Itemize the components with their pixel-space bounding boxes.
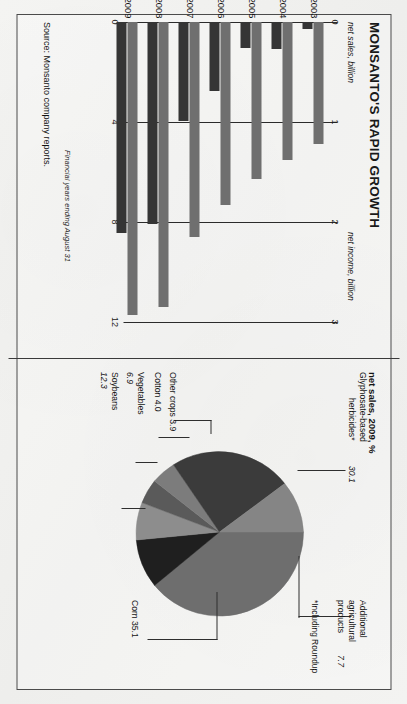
pie-value-glyphosate: 30.1 [346,466,357,483]
bar-income-2006 [209,22,219,91]
leader-line-glyphosate [297,470,345,471]
right-tick-3: 3 [329,319,339,324]
source-note: Source: Monsanto company reports. [41,22,51,167]
infographic-rotated-container: MONSANTO'S RAPID GROWTH net sales, billi… [0,0,407,704]
bar-sales-2006 [220,22,230,205]
footnote: *Including Roundup [309,600,319,673]
right-tick-0: 0 [329,19,339,24]
pie-label-corn: Corn 35.1 [129,600,140,638]
pie-value-soybeans: 12.3 [98,372,109,389]
pie-label-additional-line3: products [335,600,346,633]
bar-sales-2007 [189,22,199,237]
leader-line-vegetables [135,462,157,463]
bar-income-2009 [116,22,126,233]
pie-label-vegetables: Vegetables [135,372,146,415]
bar-chart: 0 4 8 12 0 1 2 3 [87,22,339,352]
year-label-2007: 2007 [184,0,194,18]
leader-line-additional-h [298,556,299,618]
leader-line-corn-h [216,592,217,640]
pie-label-other-crops: Other crops 3.9 [167,372,178,431]
pie-label-additional-line1: Additional [357,600,368,638]
pie-label-glyphosate-line2: herbicides* [346,398,357,441]
bar-sales-2009 [127,22,137,315]
gridline-12 [123,322,337,323]
pie-label-cotton: Cotton 4.0 [152,372,163,412]
right-tick-2: 2 [329,219,339,224]
pie-chart [131,444,307,620]
leader-line-other-crops [173,420,211,421]
bar-sales-2004 [282,22,292,160]
pie-label-soybeans: Soybeans [109,372,120,410]
bar-sales-2008 [158,22,168,307]
year-label-2009: 2009 [122,0,132,18]
page-title: MONSANTO'S RAPID GROWTH [366,22,381,228]
right-axis-label: net income, billion [345,232,355,301]
left-axis-label: net sales, billion [345,22,355,83]
bar-income-2003 [302,22,312,29]
leader-line-corn-v [147,639,217,640]
panel-divider [8,358,399,359]
bar-income-2005 [240,22,250,48]
year-label-2004: 2004 [277,0,287,18]
year-label-2005: 2005 [246,0,256,18]
pie-label-additional-line2: agricultural [346,600,357,642]
pie-value-vegetables: 6.9 [124,372,135,384]
year-label-2003: 2003 [308,0,318,18]
bar-income-2007 [178,22,188,121]
bar-income-2008 [147,22,157,224]
bar-income-2004 [271,22,281,49]
left-tick-12: 12 [109,317,119,327]
year-label-2008: 2008 [153,0,163,18]
pie-value-additional: 7.7 [335,655,346,667]
year-label-2006: 2006 [215,0,225,18]
leader-line-other-crops-foot [210,420,211,434]
fiscal-year-note: Financial years ending August 31 [62,150,71,262]
pie-chart-heading: net sales, 2009, % [366,372,377,454]
bar-sales-2003 [313,22,323,144]
leader-line-cotton [158,437,189,438]
pie-label-glyphosate-line1: Glyphosate-based [357,372,368,442]
bar-sales-2005 [251,22,261,179]
right-tick-1: 1 [329,119,339,124]
leader-line-soybeans [121,508,145,509]
